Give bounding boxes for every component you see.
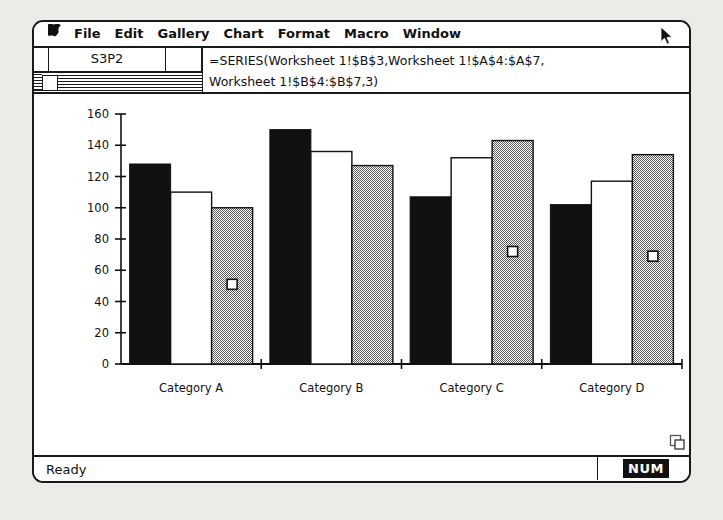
x-axis-category-label: Category D	[579, 381, 644, 395]
menu-item-window[interactable]: Window	[396, 22, 468, 46]
excel-chart-window: File Edit Gallery Chart Format Macro Win…	[32, 20, 691, 483]
bar-series-1-category-d[interactable]	[550, 205, 591, 364]
menu-item-edit[interactable]: Edit	[108, 22, 151, 46]
y-axis-tick-label: 120	[87, 170, 109, 184]
status-bar: Ready NUM	[34, 455, 689, 481]
bar-series-1-category-b[interactable]	[270, 130, 311, 364]
mouse-cursor-arrow-icon	[660, 26, 674, 46]
y-axis-tick-label: 20	[94, 326, 109, 340]
menu-item-gallery[interactable]: Gallery	[150, 22, 216, 46]
screen: File Edit Gallery Chart Format Macro Win…	[0, 0, 723, 520]
series-selection-handle[interactable]	[648, 251, 658, 261]
bar-series-2-category-a[interactable]	[171, 192, 212, 364]
bar-series-2-category-d[interactable]	[591, 181, 632, 364]
close-box-button[interactable]	[42, 75, 58, 91]
menu-item-file[interactable]: File	[67, 22, 108, 46]
y-axis-tick-label: 160	[87, 107, 109, 121]
num-lock-indicator: NUM	[623, 459, 669, 478]
status-bar-divider	[597, 457, 598, 480]
y-axis-tick-label: 60	[94, 263, 109, 277]
y-axis-tick-label: 40	[94, 295, 109, 309]
series-selection-handle[interactable]	[508, 247, 518, 257]
window-grow-box[interactable]	[669, 434, 686, 451]
bar-series-1-category-a[interactable]	[130, 164, 171, 364]
y-axis-tick-label: 80	[94, 232, 109, 246]
formula-bar-button-area	[166, 48, 202, 71]
y-axis-tick-label: 0	[102, 357, 109, 371]
menu-item-chart[interactable]: Chart	[217, 22, 271, 46]
series-selection-handle[interactable]	[227, 279, 237, 289]
menu-bar: File Edit Gallery Chart Format Macro Win…	[34, 22, 689, 48]
bar-series-3-category-b[interactable]	[352, 166, 393, 364]
title-bar-stripes	[34, 74, 42, 90]
bar-chart: 020406080100120140160Category ACategory …	[34, 94, 689, 444]
apple-menu-icon[interactable]	[34, 23, 67, 45]
x-axis-category-label: Category C	[440, 381, 504, 395]
bar-series-2-category-c[interactable]	[451, 158, 492, 364]
x-axis-category-label: Category A	[159, 381, 223, 395]
x-axis-category-label: Category B	[299, 381, 363, 395]
y-axis-tick-label: 140	[87, 138, 109, 152]
chart-plot-region[interactable]: 020406080100120140160Category ACategory …	[34, 94, 689, 444]
bar-series-2-category-b[interactable]	[311, 152, 352, 365]
name-box[interactable]: S3P2	[48, 48, 166, 71]
apple-logo-icon	[48, 24, 61, 39]
bar-series-1-category-c[interactable]	[410, 197, 451, 364]
status-message: Ready	[46, 459, 86, 480]
formula-input[interactable]: =SERIES(Worksheet 1!$B$3,Worksheet 1!$A$…	[202, 48, 689, 94]
menu-item-format[interactable]: Format	[271, 22, 337, 46]
menu-item-macro[interactable]: Macro	[337, 22, 396, 46]
y-axis-tick-label: 100	[87, 201, 109, 215]
